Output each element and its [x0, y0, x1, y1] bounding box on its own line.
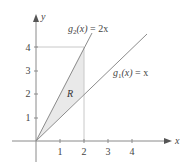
x-tick-label-1: 1: [58, 146, 63, 157]
label-g1: g1(x) = x: [113, 67, 148, 80]
x-tick-label-2: 2: [82, 146, 87, 157]
x-tick-label-4: 4: [130, 146, 135, 157]
label-g2: g2(x) = 2x: [68, 23, 108, 36]
x-tick-label-3: 3: [106, 146, 111, 157]
y-axis-arrow-icon: [33, 14, 39, 22]
curve-g1: [36, 34, 147, 141]
y-axis-label: y: [40, 11, 46, 22]
region-label: R: [66, 88, 73, 99]
graph: 1 2 3 4 1 2 3 4 x y g2(x) = 2x g1(x) = x…: [0, 0, 190, 166]
x-axis-label: x: [174, 135, 180, 146]
y-tick-label-3: 3: [26, 65, 31, 76]
x-axis-arrow-icon: [164, 138, 172, 144]
y-tick-label-1: 1: [26, 112, 31, 123]
y-tick-label-4: 4: [26, 42, 31, 53]
y-tick-label-2: 2: [26, 88, 31, 99]
